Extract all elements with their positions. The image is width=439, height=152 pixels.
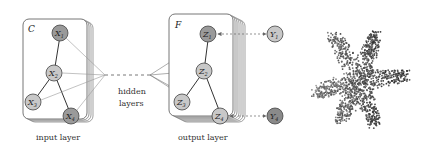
output-layer-caption: output layer [178,133,228,142]
node-z2: Z2 [196,63,212,79]
node-x4: X4 [63,108,79,124]
embedding-scatter-plot [311,30,411,129]
node-z1: Z1 [200,26,216,42]
node-x3: X3 [25,94,41,110]
output-layer-panel: F Z1 Z2 Z3 Z4 output layer [169,14,245,142]
node-x1: X1 [52,25,68,41]
input-layer-panel: C X1 X2 X3 X4 input layer [23,19,93,142]
node-y1: Y1 [267,26,283,42]
hidden-label-line2: layers [119,99,144,108]
input-layer-caption: input layer [36,133,80,142]
hidden-label-line1: hidden [118,87,146,96]
node-x2: X2 [46,65,62,81]
output-frame-label: F [174,20,182,30]
diagram-canvas: C X1 X2 X3 X4 input layer hidden laye [0,0,439,152]
input-frame-label: C [28,24,35,34]
node-y4: Y4 [267,108,283,124]
node-z3: Z3 [174,94,190,110]
node-z4: Z4 [212,108,228,124]
